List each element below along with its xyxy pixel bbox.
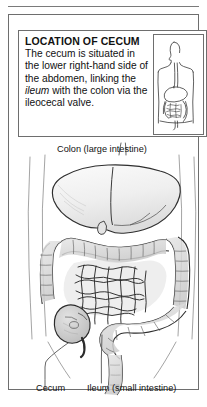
abdomen-anatomy-svg: [18, 137, 207, 404]
label-colon: Colon (large intestine): [57, 144, 147, 154]
caption-title: LOCATION OF CECUM: [25, 35, 149, 47]
label-cecum: Cecum: [36, 383, 65, 393]
caption-italic-term: ileum: [25, 85, 49, 96]
illustration-panel: LOCATION OF CECUM The cecum is situated …: [8, 14, 199, 390]
abdominal-anatomy-illustration: [18, 137, 207, 404]
human-torso-digestive-tract-inset: [154, 35, 203, 134]
top-divider-rule: [8, 6, 199, 7]
illustration-page: LOCATION OF CECUM The cecum is situated …: [0, 0, 207, 407]
caption-body: The cecum is situated in the lower right…: [25, 48, 149, 109]
caption-text-block: LOCATION OF CECUM The cecum is situated …: [25, 35, 149, 134]
leader-ileum: [101, 335, 102, 383]
label-ileum: Ileum (small intestine): [87, 383, 176, 393]
caption-box: LOCATION OF CECUM The cecum is situated …: [18, 30, 207, 137]
inset-figure-box: [153, 34, 204, 135]
caption-body-part1: The cecum is situated in the lower right…: [25, 48, 148, 84]
